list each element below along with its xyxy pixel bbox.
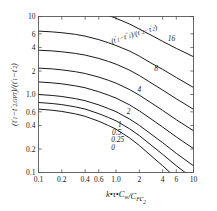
x-axis-title: k•τ•Cw/CFc2 — [106, 189, 146, 205]
y-axis-title: (t′1−t″2,OPT)/(t′1−t′2) — [9, 63, 19, 126]
y-tick-label: 0.2 — [26, 145, 36, 154]
y-tick-label: 4 — [32, 43, 36, 52]
y-tick-label: 0.6 — [26, 108, 36, 117]
x-tick-label: 6 — [174, 175, 178, 184]
curve-label-16: 16 — [168, 34, 176, 43]
x-tick-label: 0.2 — [57, 175, 67, 184]
chart-figure: 0.10.20.40.61.024610106421.00.60.40.20.1… — [0, 0, 217, 211]
curve-label-0: 0 — [111, 143, 115, 152]
log-log-line-chart: 0.10.20.40.61.024610106421.00.60.40.20.1… — [0, 0, 217, 211]
y-tick-label: 6 — [32, 30, 36, 39]
x-tick-label: 2 — [137, 175, 141, 184]
x-tick-label: 0.4 — [80, 175, 90, 184]
y-tick-label: 0.1 — [26, 168, 36, 177]
x-tick-label: 4 — [161, 175, 165, 184]
y-tick-label: 10 — [28, 12, 36, 21]
y-tick-label: 0.4 — [26, 121, 36, 130]
y-tick-label: 1.0 — [26, 90, 36, 99]
curve-label-4: 4 — [137, 85, 141, 94]
x-tick-label: 1.0 — [111, 175, 121, 184]
x-tick-label: 10 — [190, 175, 198, 184]
y-tick-label: 2 — [32, 67, 36, 76]
curve-label-8: 8 — [154, 64, 158, 73]
curve-label-2: 2 — [127, 107, 131, 116]
x-tick-label: 0.6 — [94, 175, 104, 184]
